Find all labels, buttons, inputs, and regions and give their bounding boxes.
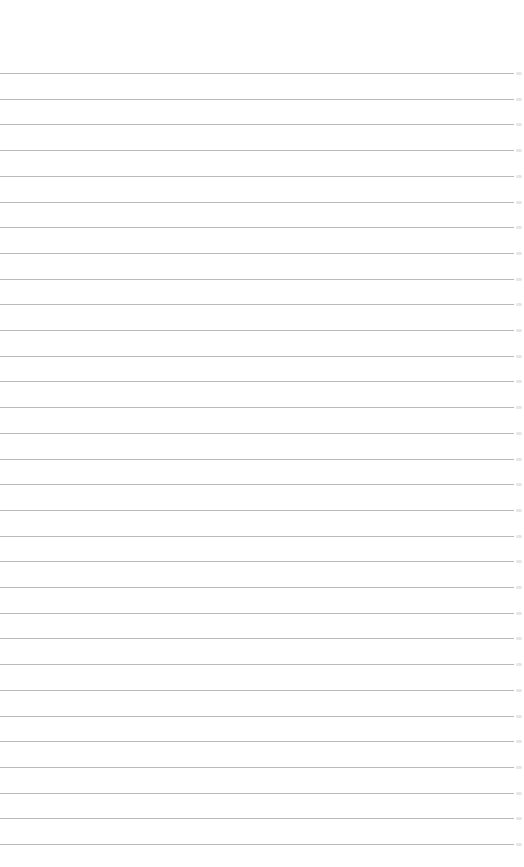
ruled-line — [0, 381, 514, 382]
ruled-line — [0, 664, 514, 665]
ruled-line — [0, 638, 514, 639]
ruled-line — [0, 767, 514, 768]
ruled-line — [0, 124, 514, 125]
ruled-line — [0, 690, 514, 691]
ruled-line — [0, 356, 514, 357]
ruled-line — [0, 433, 514, 434]
ruled-line — [0, 407, 514, 408]
ruled-line — [0, 330, 514, 331]
ruled-line — [0, 536, 514, 537]
ruled-line — [0, 716, 514, 717]
ruled-line — [0, 793, 514, 794]
lined-paper-sheet — [0, 0, 524, 867]
ruled-line — [0, 587, 514, 588]
ruled-line — [0, 561, 514, 562]
ruled-line — [0, 99, 514, 100]
ruled-line — [0, 844, 514, 845]
ruled-line — [0, 613, 514, 614]
ruled-line — [0, 304, 514, 305]
ruled-line — [0, 459, 514, 460]
ruled-line — [0, 484, 514, 485]
ruled-line — [0, 227, 514, 228]
ruled-line — [0, 73, 514, 74]
ruled-line — [0, 150, 514, 151]
ruled-line — [0, 176, 514, 177]
ruled-line — [0, 202, 514, 203]
ruled-line — [0, 818, 514, 819]
ruled-line — [0, 279, 514, 280]
ruled-line — [0, 253, 514, 254]
ruled-line — [0, 510, 514, 511]
ruled-line — [0, 741, 514, 742]
